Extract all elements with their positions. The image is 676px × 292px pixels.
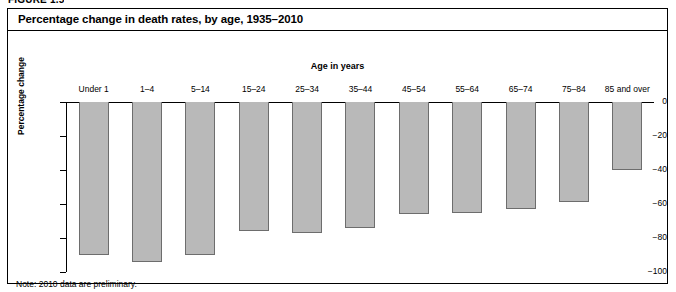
x-axis-title: Age in years [8,61,667,71]
bar [399,102,429,214]
x-axis-tick-label: 25–34 [295,84,319,94]
title-band: Percentage change in death rates, by age… [8,9,667,31]
bar-group: 1–4 [120,102,173,272]
x-axis-tick-label: Under 1 [79,84,109,94]
y-axis-tick [60,238,66,239]
y-axis-tick [60,136,66,137]
bar [292,102,322,233]
x-axis-tick-label: 45–54 [402,84,426,94]
bar [132,102,162,262]
chart-note: Note: 2010 data are preliminary. [16,279,137,289]
bar [559,102,589,202]
figure-label: FIGURE 1.5 [8,0,64,6]
bar [452,102,482,213]
bar [506,102,536,209]
bar-group: Under 1 [67,102,120,272]
x-axis-tick-label: 15–24 [242,84,266,94]
x-axis-tick-label: 75–84 [562,84,586,94]
chart-title: Percentage change in death rates, by age… [18,13,303,25]
bar-series: Under 11–45–1415–2425–3435–4445–5455–646… [67,102,654,272]
bar [612,102,642,170]
bar-group: 45–54 [387,102,440,272]
x-axis-tick-label: 85 and over [605,84,650,94]
y-axis-tick [60,102,66,103]
bar-group: 5–14 [174,102,227,272]
x-axis-tick-label: 65–74 [509,84,533,94]
bar-group: 85 and over [601,102,654,272]
bar [345,102,375,228]
bar-group: 35–44 [334,102,387,272]
bar [239,102,269,231]
bar-group: 25–34 [280,102,333,272]
plot-area: Age in years Percentage change 0−20−40−6… [8,31,667,283]
bar-group: 75–84 [547,102,600,272]
x-axis-tick-label: 1–4 [140,84,154,94]
bar [79,102,109,255]
y-axis-title: Percentage change [16,57,26,135]
y-axis-tick [60,170,66,171]
bar-group: 65–74 [494,102,547,272]
x-axis-tick-label: 35–44 [349,84,373,94]
figure-frame: Percentage change in death rates, by age… [7,8,668,284]
x-axis-tick-label: 5–14 [191,84,210,94]
bar-group: 15–24 [227,102,280,272]
x-axis-tick-label: 55–64 [455,84,479,94]
y-axis-tick [60,272,66,273]
bar [185,102,215,255]
bar-group: 55–64 [441,102,494,272]
y-axis-tick [60,204,66,205]
